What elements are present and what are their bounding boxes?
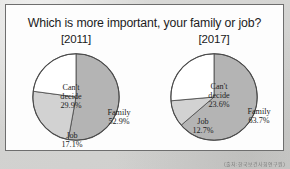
year-label-2017: [2017] [149,33,279,45]
page-title: Which is more important, your family or … [6,16,283,30]
source-attribution: (출처: 한국보건사회연구원) [193,160,285,167]
pie-chart-2017: [2017] Family 63.7% Job 12.7% Can't [149,33,279,149]
chart-panel: Which is more important, your family or … [5,4,284,151]
pie-graphic-2017: Family 63.7% Job 12.7% Can't decide 23.6… [168,51,260,143]
slice-2011-cant-decide [33,54,76,97]
pie-svg-2011 [30,51,122,143]
pie-graphic-2011: Family 52.9% Job 17.1% Can't decide 29.9… [30,51,122,143]
pie-chart-2011: [2011] Family 52.9% Job 17.1% Can't [11,33,141,149]
slice-2011-job [33,91,76,139]
slice-2017-cant-decide [171,54,214,101]
pie-svg-2017 [168,51,260,143]
year-label-2011: [2011] [11,33,141,45]
